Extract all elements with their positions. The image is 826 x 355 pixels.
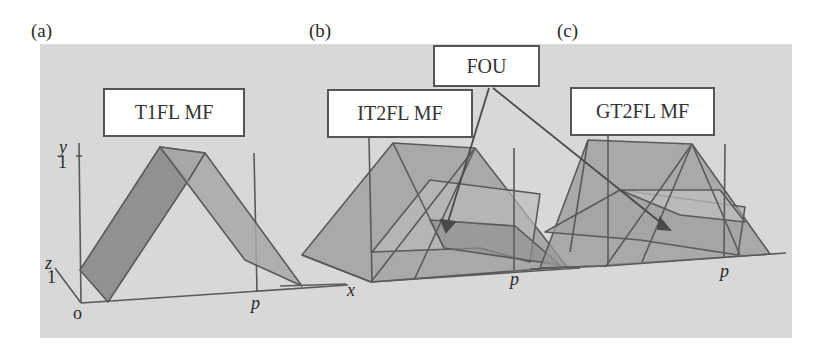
x-axis-label: x: [347, 281, 355, 299]
p-line-c: [724, 144, 725, 258]
membership-function-diagram: [0, 0, 826, 355]
y-tick-label: 1: [58, 153, 67, 171]
t1fl-right-face: [160, 147, 302, 286]
p-label-b: p: [510, 270, 519, 288]
z-axis: [55, 268, 81, 303]
label-fou: FOU: [433, 45, 540, 87]
z-tick-label: 1: [47, 268, 56, 286]
panel-a-geometry: [55, 143, 348, 303]
label-it2fl-mf: IT2FL MF: [327, 89, 473, 138]
label-t1fl-mf: T1FL MF: [103, 88, 245, 137]
p-label-a: p: [251, 294, 260, 312]
panel-b-geometry: [280, 138, 580, 286]
x-axis: [81, 285, 348, 303]
t1fl-left-face: [80, 147, 188, 302]
p-label-c: p: [720, 262, 729, 280]
label-gt2fl-mf: GT2FL MF: [570, 87, 715, 136]
origin-label: o: [73, 304, 82, 322]
panel-c-geometry: [530, 136, 786, 269]
y-axis: [79, 143, 81, 303]
